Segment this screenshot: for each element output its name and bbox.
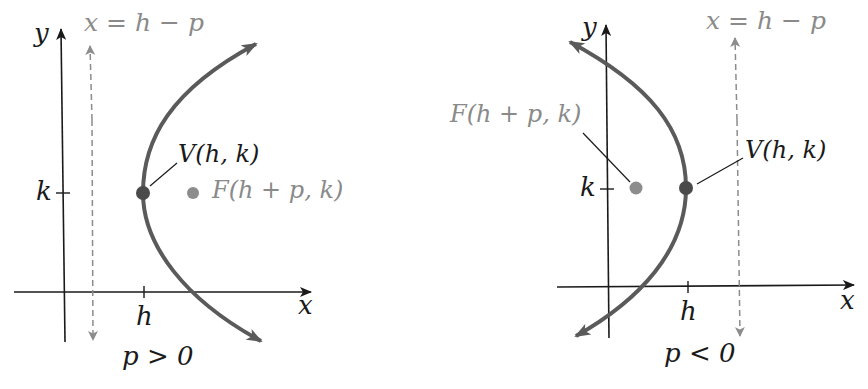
- vertex-point: [136, 186, 150, 200]
- y-axis: [606, 25, 609, 338]
- y-axis-label: y: [34, 20, 49, 46]
- k-tick-label: k: [36, 178, 52, 204]
- panel-caption: p > 0: [122, 343, 194, 370]
- h-tick-label: h: [136, 303, 153, 329]
- parabola-upper-branch: [570, 42, 686, 188]
- x-axis-label: x: [298, 292, 313, 318]
- vertex-point: [679, 181, 693, 195]
- focus-point: [187, 187, 199, 199]
- vertex-leader-line: [150, 163, 177, 186]
- x-axis-label: x: [840, 287, 855, 313]
- directrix-label: x = h − p: [84, 10, 204, 35]
- k-tick-label: k: [580, 174, 596, 200]
- h-tick-label: h: [680, 298, 697, 324]
- focus-point: [630, 182, 643, 195]
- focus-label: F(h + p, k): [212, 178, 343, 202]
- vertex-label: V(h, k): [178, 142, 259, 166]
- panel-caption: p < 0: [664, 340, 736, 367]
- directrix-line: [735, 38, 737, 120]
- y-axis-label: y: [582, 14, 597, 40]
- directrix-line: [737, 120, 740, 336]
- vertex-leader-line: [697, 158, 743, 184]
- parabola-lower-branch: [143, 193, 261, 341]
- vertex-label: V(h, k): [745, 138, 826, 162]
- x-axis: [557, 285, 854, 287]
- y-axis: [61, 29, 65, 342]
- parabola-lower-branch: [576, 188, 686, 336]
- directrix-line: [90, 46, 92, 120]
- directrix-label: x = h − p: [706, 8, 826, 33]
- directrix-line: [92, 120, 93, 340]
- caption-text: p < 0: [664, 338, 736, 368]
- parabola-diagrams: [0, 0, 868, 389]
- parabola-upper-branch: [143, 44, 256, 193]
- focus-label: F(h + p, k): [450, 102, 581, 126]
- caption-text: p > 0: [122, 341, 194, 371]
- panel-left-opening: [557, 25, 854, 338]
